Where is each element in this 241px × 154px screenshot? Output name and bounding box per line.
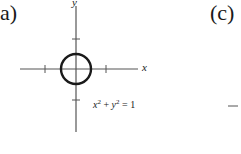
y-axis-label: y: [72, 0, 77, 8]
eq-rhs: = 1: [120, 99, 136, 110]
panel-c-label: (c): [210, 2, 234, 24]
eq-plus: +: [101, 99, 112, 110]
x-axis-label: x: [142, 62, 147, 73]
circle-diagram: [0, 0, 241, 154]
circle-equation: x2 + y2 = 1: [93, 100, 135, 110]
